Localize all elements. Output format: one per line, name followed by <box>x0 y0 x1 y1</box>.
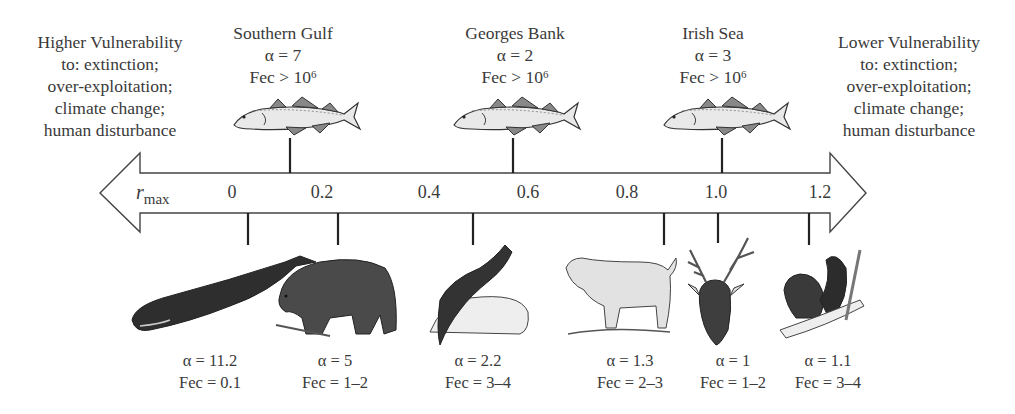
mammal-alpha: α = 1 <box>683 350 783 372</box>
axis-tick-label: 1.0 <box>705 182 728 203</box>
axis-label-rmax: rmax <box>136 181 170 208</box>
bobcat-icon <box>566 258 676 334</box>
cod-population-irish-sea: Irish Sea α = 3 Fec > 106 <box>658 22 768 88</box>
note-title: Higher Vulnerability <box>4 31 216 53</box>
mammal-label-whale: α = 11.2 Fec = 0.1 <box>160 350 260 394</box>
axis-tick-label: 0 <box>228 182 237 203</box>
mammal-fecundity: Fec = 2–3 <box>580 372 680 394</box>
lower-vulnerability-note: Lower Vulnerability to: extinction; over… <box>806 31 1012 141</box>
mammal-alpha: α = 5 <box>285 350 385 372</box>
axis-tick-label: 0.6 <box>517 182 540 203</box>
axis-tick-label: 0.8 <box>616 182 639 203</box>
population-alpha: α = 7 <box>218 44 348 66</box>
population-name: Irish Sea <box>658 22 768 44</box>
note-line: climate change; <box>4 97 216 119</box>
bear-icon <box>276 260 396 336</box>
population-name: Southern Gulf <box>218 22 348 44</box>
cod-population-southern-gulf: Southern Gulf α = 7 Fec > 106 <box>218 22 348 88</box>
cod-fish-icon <box>454 97 580 135</box>
mammal-label-bear: α = 5 Fec = 1–2 <box>285 350 385 394</box>
mammal-alpha: α = 1.1 <box>778 350 878 372</box>
cod-fish-icon <box>234 97 360 135</box>
note-title: Lower Vulnerability <box>806 31 1012 53</box>
mammal-fecundity: Fec = 1–2 <box>285 372 385 394</box>
mammal-label-otter: α = 2.2 Fec = 3–4 <box>428 350 528 394</box>
mammal-ticks <box>248 213 809 245</box>
note-line: over-exploitation; <box>806 75 1012 97</box>
note-line: climate change; <box>806 97 1012 119</box>
mammal-fecundity: Fec = 1–2 <box>683 372 783 394</box>
mammal-alpha: α = 2.2 <box>428 350 528 372</box>
note-line: to: extinction; <box>4 53 216 75</box>
population-alpha: α = 3 <box>658 44 768 66</box>
otter-icon <box>430 245 528 345</box>
mammal-alpha: α = 11.2 <box>160 350 260 372</box>
cod-ticks <box>290 138 722 173</box>
mammal-label-deer: α = 1 Fec = 1–2 <box>683 350 783 394</box>
note-line: to: extinction; <box>806 53 1012 75</box>
rmax-axis-arrow <box>100 153 866 232</box>
cod-population-georges-bank: Georges Bank α = 2 Fec > 106 <box>445 22 585 88</box>
population-alpha: α = 2 <box>445 44 585 66</box>
axis-tick-label: 1.2 <box>809 182 832 203</box>
mammal-alpha: α = 1.3 <box>580 350 680 372</box>
cod-fish-icon <box>664 97 790 135</box>
axis-tick-label: 0.4 <box>418 182 441 203</box>
population-fecundity: Fec > 106 <box>445 66 585 88</box>
mammal-label-squirrel: α = 1.1 Fec = 3–4 <box>778 350 878 394</box>
higher-vulnerability-note: Higher Vulnerability to: extinction; ove… <box>4 31 216 141</box>
population-fecundity: Fec > 106 <box>658 66 768 88</box>
note-line: over-exploitation; <box>4 75 216 97</box>
mammal-fecundity: Fec = 3–4 <box>428 372 528 394</box>
mammal-fecundity: Fec = 3–4 <box>778 372 878 394</box>
mammal-label-bobcat: α = 1.3 Fec = 2–3 <box>580 350 680 394</box>
note-line: human disturbance <box>806 119 1012 141</box>
squirrel-icon <box>780 250 864 338</box>
mammal-fecundity: Fec = 0.1 <box>160 372 260 394</box>
population-fecundity: Fec > 106 <box>218 66 348 88</box>
deer-icon <box>688 238 754 345</box>
note-line: human disturbance <box>4 119 216 141</box>
axis-tick-label: 0.2 <box>311 182 334 203</box>
population-name: Georges Bank <box>445 22 585 44</box>
